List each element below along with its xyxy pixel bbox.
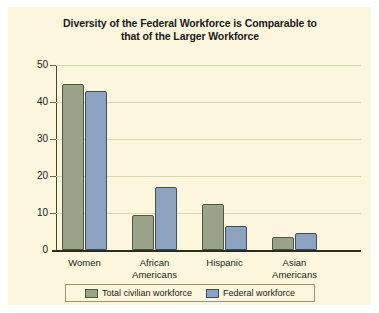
y-axis-tick-label: 30 xyxy=(14,133,48,144)
plot-area xyxy=(56,65,361,250)
x-axis-category-label-line-1: Hispanic xyxy=(206,257,242,268)
bar xyxy=(62,84,84,251)
x-axis-category-label-line-2: Americans xyxy=(250,269,340,281)
legend-label: Total civilian workforce xyxy=(102,288,192,298)
gridline xyxy=(56,65,361,66)
bar xyxy=(155,187,177,250)
y-axis-tick-label: 20 xyxy=(14,170,48,181)
y-axis-tick-label: 10 xyxy=(14,207,48,218)
bar xyxy=(202,204,224,250)
chart-title: Diversity of the Federal Workforce is Co… xyxy=(30,17,350,43)
y-axis-tick-mark xyxy=(50,65,56,66)
legend-entry: Total civilian workforce xyxy=(85,288,192,298)
legend-swatch xyxy=(85,289,98,298)
x-axis-category-label-line-1: African xyxy=(140,257,170,268)
bar xyxy=(272,237,294,250)
bar xyxy=(295,233,317,250)
legend-swatch xyxy=(206,289,219,298)
x-axis-category-label-line-1: Women xyxy=(68,257,101,268)
chart-figure: Diversity of the Federal Workforce is Co… xyxy=(8,7,371,305)
y-axis-tick-mark xyxy=(50,213,56,214)
x-axis-line xyxy=(52,250,361,252)
y-axis-tick-mark xyxy=(50,102,56,103)
x-axis-category-label-line-1: Asian xyxy=(283,257,307,268)
bar xyxy=(132,215,154,250)
y-axis-tick-label: 50 xyxy=(14,59,48,70)
y-axis-tick-label: 40 xyxy=(14,96,48,107)
x-axis-category-label-line-2: Americans xyxy=(110,269,200,281)
chart-title-line-2: that of the Larger Workforce xyxy=(30,30,350,43)
chart-title-line-1: Diversity of the Federal Workforce is Co… xyxy=(30,17,350,30)
y-axis-tick-mark xyxy=(50,139,56,140)
y-axis-tick-label: 0 xyxy=(14,244,48,255)
bar xyxy=(85,91,107,250)
x-axis-category-label: AsianAmericans xyxy=(250,257,340,280)
y-axis-tick-mark xyxy=(50,176,56,177)
legend-label: Federal workforce xyxy=(223,288,295,298)
legend-entry: Federal workforce xyxy=(206,288,295,298)
bar xyxy=(225,226,247,250)
chart-legend: Total civilian workforceFederal workforc… xyxy=(65,284,315,302)
